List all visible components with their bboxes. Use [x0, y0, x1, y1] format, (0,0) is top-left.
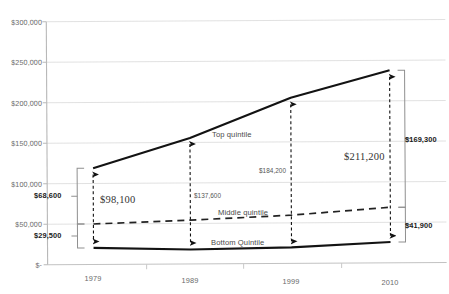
series-line-bottom-quintile: [94, 242, 391, 250]
x-axis-line: [48, 263, 447, 265]
gridlines: [46, 20, 446, 225]
bracket-2010-top-middle: [398, 70, 412, 207]
chart-container: $300,000 $250,000 $200,000 $150,000 $100…: [0, 0, 449, 294]
chart-plot-area: [0, 0, 449, 294]
bracket-1979-top-middle: [71, 168, 84, 224]
bracket-1979-middle-bottom: [71, 224, 84, 248]
gap-arrow-1999: [291, 104, 292, 241]
bracket-2010-middle-bottom: [398, 207, 411, 242]
series-line-top-quintile: [93, 70, 391, 168]
series-line-middle-quintile: [93, 207, 390, 224]
gap-arrow-1989: [190, 144, 191, 243]
